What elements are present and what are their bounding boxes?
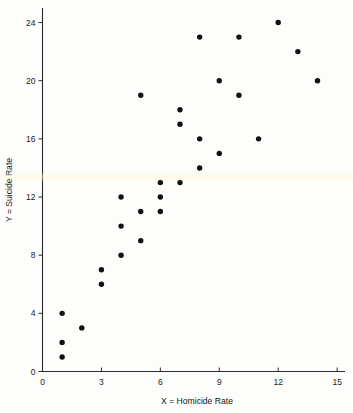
y-axis-title: Y = Suicide Rate — [4, 158, 14, 222]
data-point — [118, 252, 123, 257]
data-point — [256, 136, 261, 141]
data-point — [217, 78, 222, 83]
y-tick-label: 12 — [26, 192, 36, 202]
scatter-plot-figure: 04812162024 03691215 X = Homicide Rate Y… — [0, 0, 353, 413]
data-point — [177, 122, 182, 127]
x-tick-label: 15 — [332, 377, 342, 387]
y-tick-group: 04812162024 — [26, 18, 42, 377]
data-point — [177, 180, 182, 185]
data-points-layer — [59, 20, 320, 360]
x-tick-label: 0 — [40, 377, 45, 387]
y-tick-label: 8 — [31, 250, 36, 260]
y-tick-label: 24 — [26, 18, 36, 28]
x-tick-label: 3 — [99, 377, 104, 387]
data-point — [99, 267, 104, 272]
data-point — [295, 49, 300, 54]
data-point — [177, 107, 182, 112]
data-point — [118, 194, 123, 199]
data-point — [236, 34, 241, 39]
data-point — [118, 223, 123, 228]
x-tick-label: 9 — [217, 377, 222, 387]
plot-canvas: 04812162024 03691215 X = Homicide Rate Y… — [0, 0, 353, 413]
x-tick-label: 6 — [158, 377, 163, 387]
data-point — [158, 209, 163, 214]
x-axis-title: X = Homicide Rate — [161, 396, 233, 406]
data-point — [158, 194, 163, 199]
data-point — [99, 282, 104, 287]
y-tick-label: 20 — [26, 76, 36, 86]
data-point — [59, 340, 64, 345]
y-tick-label: 16 — [26, 134, 36, 144]
data-point — [59, 311, 64, 316]
data-point — [138, 93, 143, 98]
x-tick-group: 03691215 — [40, 368, 342, 387]
data-point — [217, 151, 222, 156]
data-point — [138, 238, 143, 243]
data-point — [236, 93, 241, 98]
data-point — [276, 20, 281, 25]
data-point — [158, 180, 163, 185]
data-point — [315, 78, 320, 83]
data-point — [197, 136, 202, 141]
data-point — [197, 34, 202, 39]
data-point — [197, 165, 202, 170]
y-tick-label: 0 — [31, 367, 36, 377]
data-point — [138, 209, 143, 214]
data-point — [79, 325, 84, 330]
x-tick-label: 12 — [273, 377, 283, 387]
data-point — [59, 354, 64, 359]
y-tick-label: 4 — [31, 308, 36, 318]
